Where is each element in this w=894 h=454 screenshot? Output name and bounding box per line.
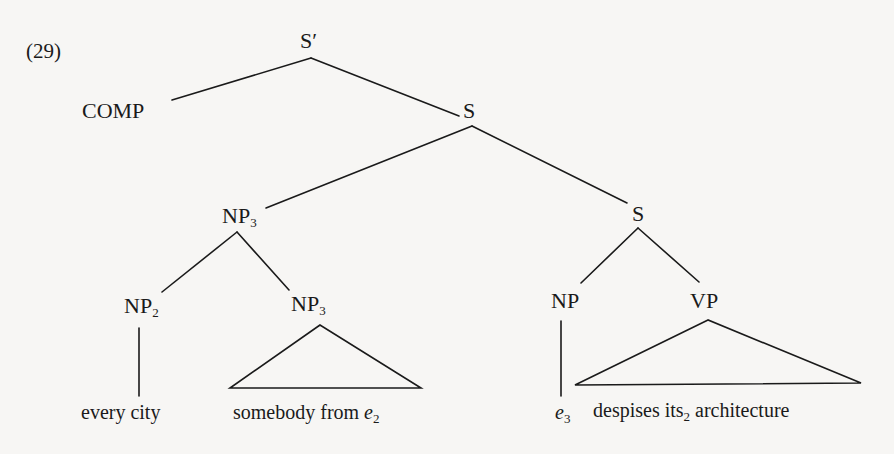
branch-np3-np2 bbox=[162, 232, 237, 292]
leaf-e3: e3 bbox=[555, 402, 570, 425]
triangle-vp bbox=[575, 320, 861, 385]
node-s2: S bbox=[632, 203, 644, 225]
branch-s2-vp bbox=[638, 228, 699, 282]
trace-index: 2 bbox=[373, 411, 380, 426]
leaf-text-pre: despises its bbox=[593, 399, 684, 421]
branch-s1-s2 bbox=[472, 126, 627, 203]
branch-sprime-comp bbox=[172, 58, 311, 100]
node-label: NP bbox=[291, 291, 319, 316]
branch-np3-np3 bbox=[237, 232, 289, 290]
node-np2: NP2 bbox=[124, 295, 159, 319]
node-label: NP bbox=[124, 293, 152, 318]
node-label: NP bbox=[222, 203, 250, 228]
branch-s2-np bbox=[581, 228, 638, 283]
node-s1: S bbox=[463, 100, 475, 122]
node-comp: COMP bbox=[82, 100, 144, 122]
triangle-np3 bbox=[230, 325, 421, 388]
leaf-text: somebody from bbox=[233, 401, 364, 423]
example-number: (29) bbox=[26, 41, 61, 62]
syntax-tree-branches bbox=[0, 0, 894, 454]
node-index: 3 bbox=[250, 215, 257, 230]
branch-sprime-s1 bbox=[311, 58, 459, 116]
leaf-somebody-from: somebody from e2 bbox=[233, 402, 379, 425]
trace-symbol: e bbox=[364, 401, 373, 423]
trace-symbol: e bbox=[555, 401, 564, 423]
branch-s1-np3 bbox=[266, 126, 472, 208]
node-index: 2 bbox=[152, 305, 159, 320]
trace-index: 3 bbox=[564, 411, 571, 426]
node-index: 3 bbox=[319, 303, 326, 318]
leaf-every-city: every city bbox=[81, 402, 160, 422]
node-np3-upper: NP3 bbox=[222, 205, 257, 229]
node-sprime: S′ bbox=[300, 30, 317, 52]
node-np: NP bbox=[551, 290, 579, 312]
leaf-despises: despises its2 architecture bbox=[593, 400, 789, 423]
node-np3-lower: NP3 bbox=[291, 293, 326, 317]
node-vp: VP bbox=[690, 290, 718, 312]
leaf-text-post: architecture bbox=[690, 399, 789, 421]
